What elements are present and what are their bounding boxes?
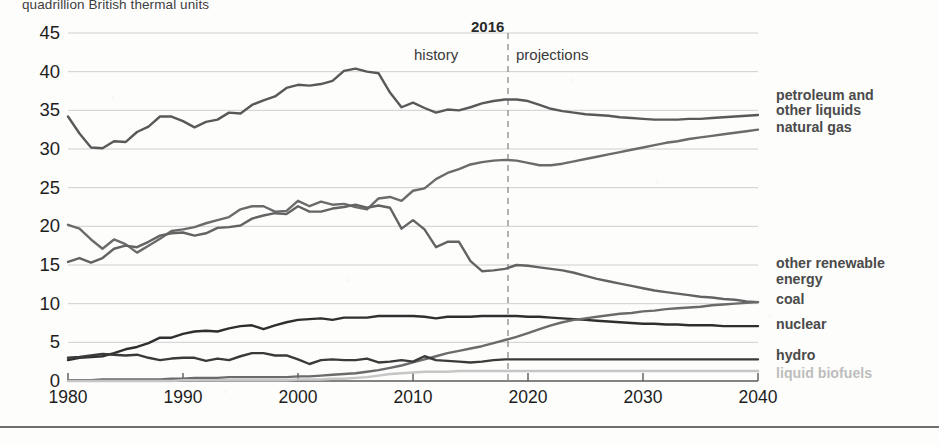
series-line-hydro bbox=[68, 353, 758, 364]
footer-divider bbox=[0, 426, 939, 428]
series-lines bbox=[68, 69, 758, 381]
y-axis-tick-label: 30 bbox=[18, 138, 60, 160]
gridlines bbox=[68, 33, 758, 342]
series-label: energy bbox=[776, 272, 823, 288]
y-axis-tick-label: 40 bbox=[18, 61, 60, 83]
series-label: nuclear bbox=[776, 317, 826, 333]
series-line-nuclear bbox=[68, 316, 758, 360]
series-label: other liquids bbox=[776, 103, 861, 119]
y-axis-tick-label: 35 bbox=[18, 99, 60, 121]
x-axis-tick-label: 2020 bbox=[493, 387, 563, 408]
y-axis-tick-label: 10 bbox=[18, 293, 60, 315]
y-axis-tick-label: 25 bbox=[18, 177, 60, 199]
x-axis-tick-label: 2000 bbox=[263, 387, 333, 408]
series-label: other renewable bbox=[776, 256, 885, 272]
x-axis-tick-label: 1990 bbox=[148, 387, 218, 408]
y-axis-tick-label: 15 bbox=[18, 254, 60, 276]
x-axis-tick-label: 1980 bbox=[33, 387, 103, 408]
chart-page: quadrillion British thermal units 2016 h… bbox=[0, 0, 939, 445]
series-line-other-renewable-energy bbox=[68, 302, 758, 380]
y-axis-tick-label: 20 bbox=[18, 215, 60, 237]
series-label: coal bbox=[776, 292, 804, 308]
series-label: natural gas bbox=[776, 120, 852, 136]
x-axis-tick-label: 2030 bbox=[608, 387, 678, 408]
y-axis-tick-label: 45 bbox=[18, 22, 60, 44]
series-label: hydro bbox=[776, 348, 815, 364]
x-axis-tick-label: 2010 bbox=[378, 387, 448, 408]
y-axis-tick-label: 5 bbox=[18, 331, 60, 353]
x-axis-tick-label: 2040 bbox=[723, 387, 793, 408]
series-line-petroleum-and-other-liquids bbox=[68, 69, 758, 149]
series-label: liquid biofuels bbox=[776, 366, 872, 382]
series-line-coal bbox=[68, 205, 758, 302]
